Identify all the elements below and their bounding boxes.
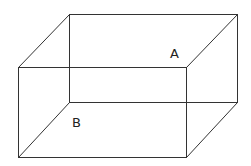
edge-bottom-left [19,103,70,158]
edge-top-right [187,15,238,68]
back-face [70,15,238,103]
label-b: B [72,115,81,130]
front-face-rect [19,68,187,158]
back-face-rect [70,15,238,103]
label-a: A [170,46,179,61]
front-face [19,68,187,158]
edge-bottom-right [187,103,238,158]
depth-edges [19,15,238,158]
edge-top-left [19,15,70,68]
box-diagram: A B [0,0,251,166]
